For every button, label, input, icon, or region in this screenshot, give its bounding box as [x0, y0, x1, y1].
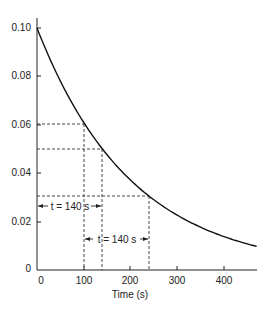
decay-curve	[37, 28, 257, 246]
x-tick-label: 100	[76, 275, 93, 286]
x-ticks	[84, 266, 224, 270]
x-tick-label: 200	[122, 275, 139, 286]
guide-lines	[37, 124, 149, 270]
x-tick-label: 0	[38, 275, 44, 286]
x-tick-label: 400	[216, 275, 233, 286]
y-tick-label: 0.08	[12, 70, 32, 81]
annotation-label: t = 140 s	[51, 201, 90, 212]
x-tick-label: 300	[169, 275, 186, 286]
annotation-half-life-2: t = 140 s	[85, 234, 148, 245]
y-ticks	[37, 28, 41, 222]
y-tick-label: 0.02	[12, 216, 32, 227]
y-tick-label: 0.04	[12, 167, 32, 178]
annotation-half-life-1: t = 140 s	[38, 201, 101, 212]
annotation-label: t = 140 s	[98, 234, 137, 245]
x-axis-title: Time (s)	[112, 289, 148, 300]
y-tick-label: 0	[25, 263, 31, 274]
y-tick-label: 0.10	[12, 22, 32, 33]
decay-chart: 0.10 0.08 0.06 0.04 0.02 0 0 100 200 300…	[0, 0, 272, 313]
y-tick-label: 0.06	[12, 119, 32, 130]
